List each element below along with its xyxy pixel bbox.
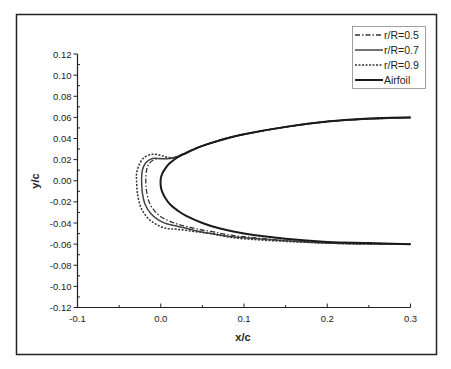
x-axis-label: x/c — [235, 331, 250, 343]
legend-label: Airfoil — [384, 74, 410, 86]
x-tick-label: 0.0 — [154, 313, 167, 324]
y-ticks: 0.120.100.080.060.040.020.00-0.02-0.04-0… — [50, 49, 80, 314]
y-tick-label: -0.06 — [50, 239, 72, 250]
y-tick-label: 0.08 — [53, 91, 72, 102]
y-tick-label: 0.00 — [53, 175, 72, 186]
legend-label: r/R=0.7 — [384, 44, 419, 56]
y-tick-label: 0.02 — [53, 154, 72, 165]
y-tick-label: -0.04 — [50, 218, 72, 229]
series-r-r-0-5 — [146, 117, 411, 244]
axes: 0.120.100.080.060.040.020.00-0.02-0.04-0… — [50, 49, 417, 324]
x-tick-label: -0.1 — [69, 313, 85, 324]
x-tick-label: 0.3 — [404, 313, 417, 324]
y-tick-label: 0.10 — [53, 70, 72, 81]
y-tick-label: 0.06 — [53, 112, 72, 123]
series-airfoil — [161, 117, 411, 244]
y-tick-label: -0.10 — [50, 281, 72, 292]
x-ticks: -0.10.00.10.20.3 — [69, 304, 417, 324]
y-tick-label: 0.12 — [53, 49, 72, 60]
legend: r/R=0.5 r/R=0.7 r/R=0.9 Airfoil — [353, 27, 426, 89]
chart-figure: 0.120.100.080.060.040.020.00-0.02-0.04-0… — [0, 0, 451, 369]
y-tick-label: -0.08 — [50, 260, 72, 271]
y-tick-label: 0.04 — [53, 133, 72, 144]
y-tick-label: -0.12 — [50, 302, 72, 313]
y-tick-label: -0.02 — [50, 196, 72, 207]
legend-label: r/R=0.5 — [384, 29, 419, 41]
plot-series — [136, 117, 410, 244]
y-axis-label: y/c — [29, 173, 41, 188]
x-tick-label: 0.1 — [237, 313, 250, 324]
series-r-r-0-9 — [136, 117, 410, 244]
x-tick-label: 0.2 — [321, 313, 334, 324]
chart-canvas: 0.120.100.080.060.040.020.00-0.02-0.04-0… — [0, 0, 451, 369]
legend-label: r/R=0.9 — [384, 59, 419, 71]
